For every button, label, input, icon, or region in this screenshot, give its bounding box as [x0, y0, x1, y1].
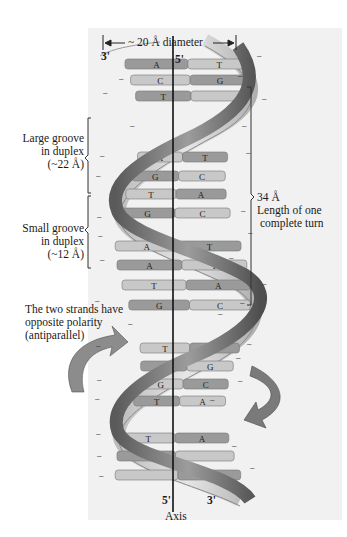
- phosphate-minus-sign: –: [119, 74, 124, 83]
- phosphate-minus-sign: –: [241, 206, 246, 215]
- turn-length-label: 34 Å Length of one complete turn: [257, 191, 324, 230]
- base-letter: A: [143, 242, 150, 252]
- phosphate-minus-sign: –: [100, 255, 105, 264]
- phosphate-minus-sign: –: [232, 441, 237, 450]
- base-letter: T: [145, 434, 151, 444]
- base-letter: G: [152, 172, 159, 182]
- large-groove-label: Large groove in duplex (~22 Å): [0, 132, 84, 171]
- base-letter: A: [198, 190, 205, 200]
- base-letter: T: [162, 344, 168, 354]
- base-pair: T: [136, 91, 247, 102]
- strand-end-top-right: 5': [175, 53, 184, 65]
- phosphate-minus-sign: –: [248, 228, 253, 237]
- phosphate-minus-sign: –: [246, 148, 251, 157]
- small-groove-line2: in duplex: [0, 235, 84, 248]
- phosphate-minus-sign: –: [257, 51, 262, 60]
- phosphate-minus-sign: –: [99, 471, 104, 480]
- base-letter: G: [156, 301, 163, 311]
- base-letter: G: [144, 209, 151, 219]
- strand-end-top-left: 3': [101, 50, 110, 62]
- phosphate-minus-sign: –: [95, 394, 100, 403]
- base-letter: C: [199, 172, 205, 182]
- turn-length-line3: complete turn: [257, 217, 324, 230]
- phosphate-minus-sign: –: [97, 451, 102, 460]
- diameter-label: ~ 20 Å diameter: [128, 36, 203, 49]
- axis-label: Axis: [165, 510, 187, 523]
- phosphate-minus-sign: –: [210, 395, 215, 404]
- base-pair: GC: [120, 208, 230, 219]
- phosphate-minus-sign: –: [229, 253, 234, 262]
- base-letter: T: [202, 153, 208, 163]
- turn-length-line1: 34 Å: [257, 191, 324, 204]
- base-pair: CG: [131, 75, 250, 86]
- small-groove-line1: Small groove: [0, 222, 84, 235]
- phosphate-minus-sign: –: [262, 279, 267, 288]
- polarity-arrow-down: [244, 366, 280, 428]
- base-letter: C: [203, 380, 209, 390]
- base-letter: A: [215, 281, 222, 291]
- strand-end-bottom-left: 5': [162, 494, 171, 506]
- base-letter: T: [161, 92, 167, 102]
- base-pair: AT: [125, 59, 251, 70]
- phosphate-minus-sign: –: [97, 212, 102, 221]
- phosphate-minus-sign: –: [242, 121, 247, 130]
- polarity-note: The two strands have opposite polarity (…: [25, 303, 123, 342]
- base-pair: GC: [129, 300, 251, 311]
- phosphate-minus-sign: –: [96, 341, 101, 350]
- base-letter: T: [154, 397, 160, 407]
- phosphate-minus-sign: –: [130, 121, 135, 130]
- base-letter: A: [199, 397, 206, 407]
- phosphate-minus-sign: –: [100, 151, 105, 160]
- base-letter: T: [207, 242, 213, 252]
- small-groove-label: Small groove in duplex (~12 Å): [0, 222, 84, 261]
- base-letter: A: [146, 261, 153, 271]
- phosphate-minus-sign: –: [218, 309, 223, 318]
- phosphate-minus-sign: –: [103, 88, 108, 97]
- polarity-note-line1: The two strands have: [25, 303, 123, 316]
- base-letter: T: [151, 281, 157, 291]
- large-groove-line3: (~22 Å): [0, 158, 84, 171]
- strand-end-bottom-right: 3': [207, 494, 216, 506]
- phosphate-minus-sign: –: [236, 353, 241, 362]
- large-groove-bracket: [85, 118, 91, 193]
- phosphate-minus-sign: –: [240, 298, 245, 307]
- large-groove-line2: in duplex: [0, 145, 84, 158]
- phosphate-minus-sign: –: [97, 375, 102, 384]
- base-pair: GC: [132, 171, 225, 182]
- polarity-note-line2: opposite polarity: [25, 316, 123, 329]
- phosphate-minus-sign: –: [238, 376, 243, 385]
- small-groove-line3: (~12 Å): [0, 248, 84, 261]
- base-letter: C: [157, 76, 163, 86]
- base-letter: C: [200, 209, 206, 219]
- base-letter: T: [148, 190, 154, 200]
- large-groove-line1: Large groove: [0, 132, 84, 145]
- turn-length-line2: Length of one: [257, 204, 324, 217]
- base-letter: T: [217, 60, 223, 70]
- phosphate-minus-sign: –: [250, 463, 255, 472]
- phosphate-minus-sign: –: [98, 231, 103, 240]
- base-letter: G: [217, 76, 224, 86]
- phosphate-minus-sign: –: [262, 94, 267, 103]
- phosphate-minus-sign: –: [247, 339, 252, 348]
- base-letter: G: [207, 362, 214, 372]
- dna-double-helix-diagram: ATCGTATGCTAGCATATTAGCTACGGCTATA ––––––––…: [0, 0, 347, 537]
- small-groove-bracket: [85, 196, 91, 268]
- phosphate-minus-sign: –: [96, 171, 101, 180]
- base-letter: A: [153, 60, 160, 70]
- base-pair: TA: [122, 280, 250, 291]
- base-letter: A: [199, 434, 206, 444]
- base-pair: TA: [126, 189, 226, 200]
- phosphate-minus-sign: –: [96, 429, 101, 438]
- phosphate-minus-sign: –: [238, 71, 243, 80]
- polarity-note-line3: (antiparallel): [25, 329, 123, 342]
- phosphate-minus-sign: –: [128, 319, 133, 328]
